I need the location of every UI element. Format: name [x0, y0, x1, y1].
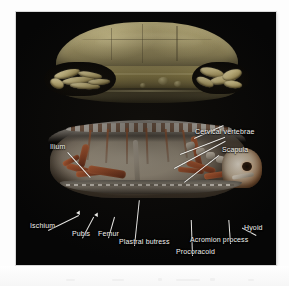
label-hyoid: Hyoid	[244, 224, 263, 232]
label-procoracoid: Procoracoid	[176, 248, 215, 256]
label-acromion-process: Acromion process	[190, 236, 248, 244]
page-bottom-margin	[0, 266, 289, 286]
scute-seam	[142, 24, 143, 63]
label-ischium: Ischium	[30, 222, 55, 230]
smudge	[158, 278, 162, 281]
scute-seam	[111, 28, 112, 60]
rib	[126, 128, 128, 164]
label-cervical-vertebrae: Cervical vertebrae	[195, 128, 255, 136]
external-shell-ct-render	[42, 18, 252, 114]
smudge	[112, 279, 124, 281]
scute-seam	[81, 39, 212, 40]
plastron-seam	[66, 184, 234, 186]
smudge	[176, 279, 200, 281]
smudge	[66, 279, 75, 281]
label-femur: Femur	[98, 230, 119, 238]
forelimb-pocket	[44, 62, 116, 96]
bridge-bump	[174, 81, 182, 87]
hindlimb-pocket	[192, 62, 250, 94]
carapace-keel	[96, 33, 202, 50]
label-pubis: Pubis	[72, 230, 90, 238]
bridge-bump	[158, 77, 169, 85]
limb-bone	[224, 80, 243, 89]
ct-figure-panel: Ilium Cervical vertebrae Scapula Ischium…	[16, 12, 276, 265]
label-scapula: Scapula	[222, 146, 248, 154]
limb-bone	[88, 78, 110, 85]
smudge	[248, 279, 254, 281]
label-plastral-butress: Plastral butress	[119, 238, 170, 246]
smudge	[210, 278, 215, 281]
figure-page: Ilium Cervical vertebrae Scapula Ischium…	[0, 0, 289, 286]
scute-seam	[176, 26, 177, 61]
label-ilium: Ilium	[50, 143, 66, 151]
orbit	[242, 162, 252, 171]
